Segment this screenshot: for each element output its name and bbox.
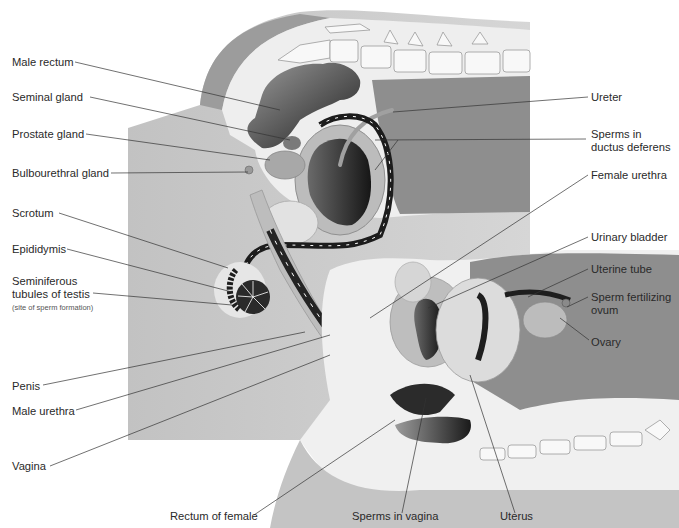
ovary-organ: [523, 302, 567, 338]
label-seminal-gland: Seminal gland: [12, 90, 83, 104]
label-sperms-in-vagina: Sperms in vagina: [352, 509, 438, 523]
label-urinary-bladder: Urinary bladder: [591, 230, 667, 244]
label-female-urethra: Female urethra: [591, 168, 667, 182]
label-ovary: Ovary: [591, 335, 621, 349]
label-seminiferous-1: Seminiferous: [12, 274, 77, 288]
label-sperm-fertilizing-1: Sperm fertilizing: [591, 290, 671, 304]
label-rectum-of-female: Rectum of female: [170, 509, 258, 523]
label-sperms-ductus-1: Sperms in: [591, 127, 641, 141]
label-prostate-gland: Prostate gland: [12, 127, 84, 141]
label-male-rectum: Male rectum: [12, 55, 74, 69]
anatomy-illustration: [0, 0, 679, 528]
label-penis: Penis: [12, 379, 40, 393]
label-uterine-tube: Uterine tube: [591, 262, 652, 276]
label-vagina: Vagina: [12, 459, 46, 473]
label-epididymis: Epididymis: [12, 242, 66, 256]
label-sperm-fertilizing-2: ovum: [591, 303, 618, 317]
label-seminiferous-2: tubules of testis: [12, 287, 90, 301]
label-male-urethra: Male urethra: [12, 404, 75, 418]
label-bulbourethral-gland: Bulbourethral gland: [12, 166, 109, 180]
label-seminiferous-note: (site of sperm formation): [12, 303, 93, 313]
label-scrotum: Scrotum: [12, 206, 54, 220]
label-sperms-ductus-2: ductus deferens: [591, 140, 671, 154]
label-ureter: Ureter: [591, 90, 622, 104]
label-uterus: Uterus: [500, 509, 533, 523]
